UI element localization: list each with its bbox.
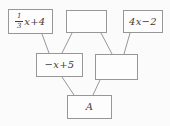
expression-pyramid-diagram: 1 3 x+4 4x−2 −x+5 A (0, 0, 170, 126)
box-label-A: A (67, 95, 112, 119)
box-expression-one-third-x-plus-4: 1 3 x+4 (8, 9, 53, 34)
box-expression-4x-minus-2: 4x−2 (123, 10, 163, 33)
box-label: −x+5 (45, 60, 75, 70)
fraction-denominator: 3 (17, 22, 22, 30)
fraction-numerator: 1 (15, 13, 23, 22)
box-expression-minus-x-plus-5: −x+5 (36, 53, 83, 77)
box-label: 4x−2 (129, 17, 157, 27)
box-empty-top-middle (66, 10, 107, 33)
fraction-one-third: 1 3 (15, 13, 23, 30)
expression-rest: x+4 (24, 17, 45, 27)
box-empty-mid-right (95, 54, 138, 80)
box-label: A (86, 102, 94, 112)
